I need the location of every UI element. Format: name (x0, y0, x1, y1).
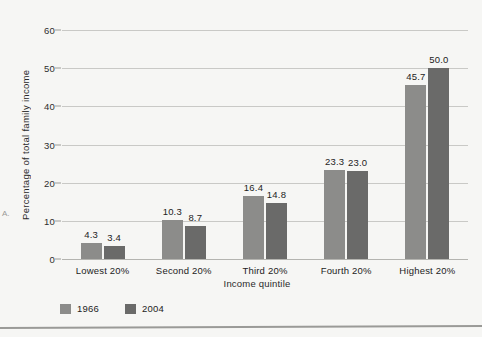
legend-label: 2004 (142, 303, 164, 314)
y-tick-label: 60 (44, 25, 55, 36)
bar-value-label: 23.3 (325, 156, 344, 167)
legend-label: 1966 (77, 303, 99, 314)
x-category-label: Second 20% (156, 265, 212, 276)
bar: 23.0 (347, 171, 368, 259)
y-tick-label: 30 (44, 139, 55, 150)
legend-swatch (125, 304, 136, 314)
y-tick-mark (55, 106, 61, 107)
bar-group: 10.38.7Second 20% (162, 30, 206, 259)
y-axis-title: Percentage of total family income (18, 50, 32, 240)
bar-value-label: 10.3 (163, 206, 182, 217)
y-tick-mark (55, 182, 61, 183)
bar: 8.7 (185, 226, 206, 259)
bar-chart-figure: A. Percentage of total family income 010… (0, 0, 482, 337)
plot-area: 0102030405060 4.33.4Lowest 20%10.38.7Sec… (62, 30, 468, 259)
bar-group: 16.414.8Third 20% (243, 30, 287, 259)
y-tick-label: 10 (44, 215, 55, 226)
bar: 50.0 (428, 68, 449, 259)
bar-value-label: 3.4 (107, 232, 121, 243)
y-tick-label: 20 (44, 177, 55, 188)
bar-group: 45.750.0Highest 20% (405, 30, 449, 259)
bar: 23.3 (324, 170, 345, 259)
x-category-label: Highest 20% (399, 265, 455, 276)
legend-item: 1966 (60, 303, 99, 314)
bar-value-label: 16.4 (244, 182, 263, 193)
bar: 4.3 (81, 243, 102, 259)
bar-value-label: 23.0 (348, 157, 367, 168)
y-tick-mark (55, 259, 61, 260)
page-margin-mark: A. (2, 209, 10, 218)
bar: 45.7 (405, 85, 426, 259)
y-tick-mark (55, 220, 61, 221)
x-category-label: Lowest 20% (76, 265, 130, 276)
y-tick-mark (55, 30, 61, 31)
legend-swatch (60, 304, 71, 314)
y-tick-mark (55, 68, 61, 69)
bar-value-label: 4.3 (84, 229, 98, 240)
bar: 10.3 (162, 220, 183, 259)
legend-item: 2004 (125, 303, 164, 314)
bar-value-label: 50.0 (429, 54, 448, 65)
x-category-label: Fourth 20% (321, 265, 372, 276)
y-tick-label: 50 (44, 63, 55, 74)
page-bottom-rule (0, 325, 482, 329)
bar-value-label: 45.7 (406, 71, 425, 82)
y-tick-label: 40 (44, 101, 55, 112)
x-axis-title: Income quintile (0, 278, 482, 289)
gridline: 0 (62, 259, 468, 260)
bar: 14.8 (266, 203, 287, 259)
bar: 16.4 (243, 196, 264, 259)
x-category-label: Third 20% (242, 265, 287, 276)
bar: 3.4 (104, 246, 125, 259)
bar-value-label: 8.7 (188, 212, 202, 223)
y-tick-mark (55, 144, 61, 145)
bar-value-label: 14.8 (267, 189, 286, 200)
bar-group: 23.323.0Fourth 20% (324, 30, 368, 259)
chart-legend: 19662004 (60, 303, 164, 314)
bar-group: 4.33.4Lowest 20% (81, 30, 125, 259)
